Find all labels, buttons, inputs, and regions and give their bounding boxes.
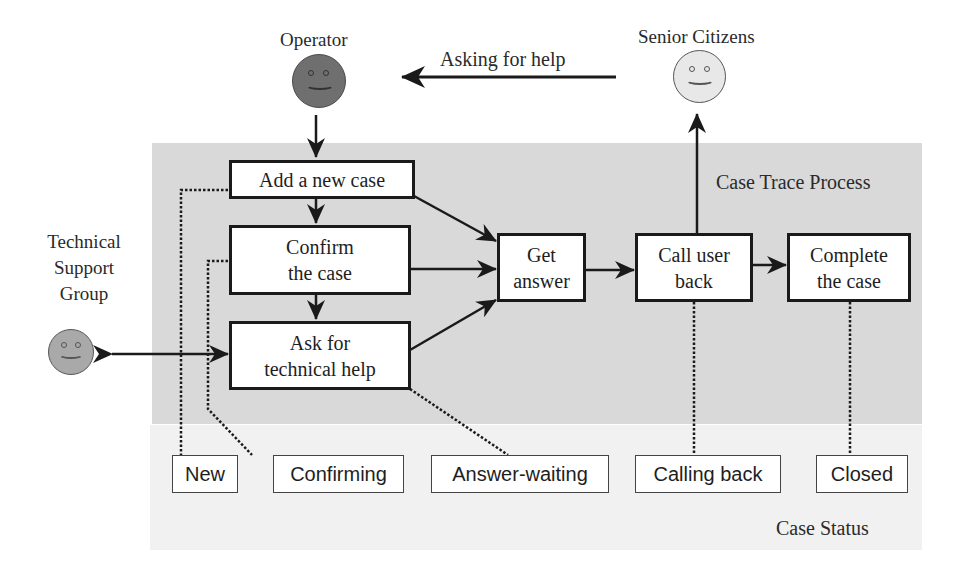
case-trace-process-title: Case Trace Process: [716, 172, 870, 192]
step-get-answer[interactable]: Get answer: [497, 233, 586, 302]
operator-label: Operator: [280, 30, 348, 49]
technical-support-smiley-face-icon: [48, 329, 94, 375]
step-complete-case[interactable]: Complete the case: [787, 233, 911, 302]
edge-ask-to-get: [410, 300, 496, 350]
status-answer-waiting[interactable]: Answer-waiting: [431, 455, 609, 493]
senior-citizens-label: Senior Citizens: [638, 27, 755, 46]
technical-support-group-label: Technical Support Group: [22, 229, 146, 307]
status-new[interactable]: New: [172, 455, 238, 493]
operator-smiley-face-icon: [292, 54, 346, 108]
senior-citizens-smiley-face-icon: [673, 50, 726, 103]
status-closed[interactable]: Closed: [816, 455, 908, 493]
asking-for-help-label: Asking for help: [440, 49, 566, 69]
case-trace-diagram: Operator Senior Citizens Technical Suppo…: [0, 0, 957, 568]
step-add-new-case[interactable]: Add a new case: [229, 160, 415, 199]
step-confirm-case[interactable]: Confirm the case: [229, 225, 411, 295]
link-ask-answer-waiting: [410, 389, 508, 455]
case-status-title: Case Status: [776, 518, 869, 538]
step-ask-technical-help[interactable]: Ask for technical help: [229, 321, 411, 390]
link-add-new: [181, 190, 228, 455]
edge-add-to-get: [414, 196, 496, 241]
status-confirming[interactable]: Confirming: [273, 455, 404, 493]
status-calling-back[interactable]: Calling back: [635, 455, 781, 493]
step-call-user-back[interactable]: Call user back: [635, 233, 753, 302]
